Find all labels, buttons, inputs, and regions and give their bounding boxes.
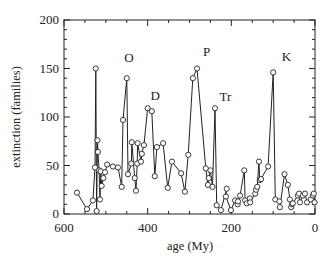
data-point-marker <box>277 199 282 204</box>
data-point-marker <box>124 76 129 81</box>
data-point-marker <box>228 208 233 213</box>
event-label-k: K <box>282 49 292 64</box>
y-tick-label: 150 <box>40 61 60 76</box>
x-axis-title: age (My) <box>167 239 213 253</box>
event-label-p: P <box>203 44 210 59</box>
data-point-marker <box>99 183 104 188</box>
data-point-marker <box>119 184 124 189</box>
data-point-marker <box>235 199 240 204</box>
data-point-marker <box>214 203 219 208</box>
data-point-marker <box>149 109 154 114</box>
data-point-marker <box>139 151 144 156</box>
data-point-marker <box>97 197 102 202</box>
data-point-marker <box>194 66 199 71</box>
data-point-marker <box>206 176 211 181</box>
data-point-marker <box>242 168 247 173</box>
data-point-marker <box>190 76 195 81</box>
y-tick-label: 0 <box>53 206 60 221</box>
data-point-marker <box>165 185 170 190</box>
data-point-marker <box>95 149 100 154</box>
data-point-marker <box>186 152 191 157</box>
data-point-marker <box>94 208 99 213</box>
data-point-marker <box>282 172 287 177</box>
data-point-marker <box>224 186 229 191</box>
data-point-marker <box>84 207 89 212</box>
data-point-marker <box>129 161 134 166</box>
data-point-marker <box>312 200 317 205</box>
data-point-marker <box>169 159 174 164</box>
data-point-marker <box>93 66 98 71</box>
data-point-marker <box>266 164 271 169</box>
data-point-marker <box>125 172 130 177</box>
data-series <box>74 66 317 214</box>
event-label-d: D <box>151 88 160 103</box>
data-point-marker <box>102 170 107 175</box>
series-line <box>77 69 315 212</box>
data-point-marker <box>258 176 263 181</box>
data-point-marker <box>255 184 260 189</box>
data-point-marker <box>104 162 109 167</box>
y-tick-label: 50 <box>46 158 59 173</box>
data-point-marker <box>110 164 115 169</box>
data-point-marker <box>95 138 100 143</box>
data-point-marker <box>277 205 282 210</box>
data-point-marker <box>101 176 106 181</box>
data-point-marker <box>311 191 316 196</box>
x-tick-label: 200 <box>222 220 242 235</box>
data-point-marker <box>135 141 140 146</box>
data-point-marker <box>90 198 95 203</box>
data-point-marker <box>179 171 184 176</box>
data-point-marker <box>256 159 261 164</box>
data-point-marker <box>238 193 243 198</box>
data-point-marker <box>218 208 223 213</box>
data-point-marker <box>285 182 290 187</box>
data-point-marker <box>133 188 138 193</box>
data-point-marker <box>248 200 253 205</box>
data-point-marker <box>141 143 146 148</box>
data-point-marker <box>138 159 143 164</box>
data-point-marker <box>297 200 302 205</box>
y-axis-title: extinction (families) <box>9 66 23 168</box>
data-point-marker <box>290 201 295 206</box>
data-point-marker <box>212 106 217 111</box>
data-point-marker <box>223 194 228 199</box>
event-label-tr: Tr <box>220 89 232 104</box>
data-point-marker <box>74 190 79 195</box>
data-point-marker <box>302 191 307 196</box>
y-tick-label: 200 <box>40 12 60 27</box>
data-point-marker <box>129 140 134 145</box>
data-point-marker <box>154 144 159 149</box>
y-tick-label: 100 <box>40 109 60 124</box>
event-label-o: O <box>124 50 133 65</box>
data-point-marker <box>152 174 157 179</box>
data-point-marker <box>271 70 276 75</box>
data-point-marker <box>182 189 187 194</box>
extinction-chart: 6004002000050100150200 ODPTrK age (My) e… <box>0 0 331 262</box>
x-tick-label: 0 <box>312 220 319 235</box>
data-point-marker <box>115 165 120 170</box>
data-point-marker <box>120 117 125 122</box>
data-point-marker <box>161 141 166 146</box>
data-point-marker <box>208 168 213 173</box>
x-tick-label: 400 <box>138 220 158 235</box>
data-point-marker <box>132 176 137 181</box>
event-labels: ODPTrK <box>124 44 292 104</box>
data-point-marker <box>210 184 215 189</box>
x-tick-label: 600 <box>54 220 74 235</box>
